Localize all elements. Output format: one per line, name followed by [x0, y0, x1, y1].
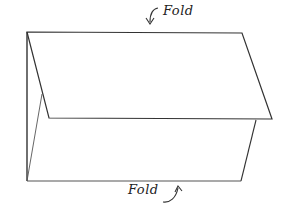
right-lower-edge	[241, 120, 256, 181]
bottom-fold-arrowhead-icon	[175, 186, 182, 192]
top-flap	[27, 32, 272, 119]
top-fold-label: Fold	[163, 3, 194, 18]
top-fold-arrow-icon	[150, 8, 158, 22]
bottom-fold-label: Fold	[128, 182, 159, 197]
inner-left-diagonal	[27, 94, 42, 181]
